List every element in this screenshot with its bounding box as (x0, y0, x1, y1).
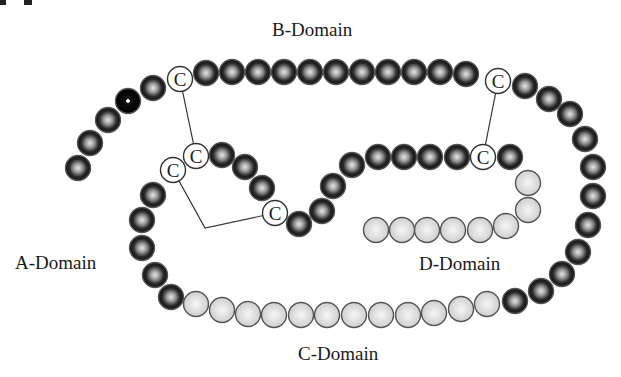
dark-residue-bead (96, 108, 121, 133)
bead-chain-svg: CCCCCC (0, 0, 621, 377)
dark-residue-bead (566, 240, 591, 265)
dark-residue-bead (287, 212, 312, 237)
dark-residue-bead (402, 60, 427, 85)
dark-residue-bead (445, 145, 470, 170)
dark-residue-bead (210, 143, 235, 168)
light-residue-bead (184, 292, 209, 317)
light-residue-bead (262, 303, 287, 328)
cysteine-bead: C (263, 201, 288, 226)
cysteine-bead: C (486, 69, 511, 94)
light-residue-bead (289, 303, 314, 328)
d-domain-label: D-Domain (419, 254, 500, 273)
dark-residue-bead (392, 145, 417, 170)
light-residue-bead (516, 198, 541, 223)
light-residue-bead (390, 218, 415, 243)
light-residue-bead (315, 303, 340, 328)
dark-residue-bead (78, 131, 103, 156)
a-domain-label: A-Domain (15, 253, 96, 272)
light-residue-bead (396, 303, 421, 328)
dark-residue-bead (581, 184, 606, 209)
light-residue-bead (364, 218, 389, 243)
dark-residue-bead (558, 102, 583, 127)
dark-residue-bead (418, 145, 443, 170)
light-residue-bead (468, 218, 493, 243)
light-residue-bead (494, 214, 519, 239)
cysteine-letter: C (174, 69, 187, 90)
dark-residue-bead (298, 60, 323, 85)
black-residue-bead (116, 89, 141, 114)
dark-residue-bead (513, 74, 538, 99)
amino-acid-beads: CCCCCC (66, 60, 606, 328)
dark-residue-bead (220, 60, 245, 85)
dark-residue-bead (340, 153, 365, 178)
cysteine-bead: C (471, 145, 496, 170)
dark-residue-bead (454, 62, 479, 87)
light-residue-bead (236, 302, 261, 327)
light-residue-bead (342, 303, 367, 328)
cysteine-letter: C (190, 146, 203, 167)
light-residue-bead (516, 171, 541, 196)
dark-residue-bead (130, 208, 155, 233)
c-domain-label: C-Domain (298, 344, 378, 363)
dark-residue-bead (310, 199, 335, 224)
cysteine-bead: C (161, 158, 186, 183)
light-residue-bead (369, 303, 394, 328)
dark-residue-bead (246, 60, 271, 85)
dark-residue-bead (324, 60, 349, 85)
dark-residue-bead (376, 60, 401, 85)
light-residue-bead (441, 218, 466, 243)
dark-residue-bead (143, 263, 168, 288)
dark-residue-bead (141, 183, 166, 208)
cysteine-bead: C (168, 67, 193, 92)
dark-residue-bead (529, 279, 554, 304)
cysteine-letter: C (269, 203, 282, 224)
dark-residue-bead (581, 155, 606, 180)
cysteine-letter: C (492, 71, 505, 92)
dark-residue-bead (576, 213, 601, 238)
dark-residue-bead (503, 289, 528, 314)
light-residue-bead (422, 301, 447, 326)
dark-residue-bead (573, 127, 598, 152)
dark-residue-bead (130, 236, 155, 261)
dark-residue-bead (550, 262, 575, 287)
cysteine-letter: C (167, 160, 180, 181)
light-residue-bead (210, 298, 235, 323)
dark-residue-bead (141, 76, 166, 101)
dark-residue-bead (428, 60, 453, 85)
dark-residue-bead (321, 174, 346, 199)
dark-residue-bead (537, 87, 562, 112)
b-domain-label: B-Domain (272, 20, 352, 39)
cysteine-letter: C (477, 147, 490, 168)
dark-residue-bead (194, 61, 219, 86)
light-residue-bead (449, 297, 474, 322)
dark-residue-bead (272, 60, 297, 85)
dark-residue-bead (233, 155, 258, 180)
dark-residue-bead (66, 156, 91, 181)
cysteine-bead: C (184, 144, 209, 169)
dark-residue-bead (366, 145, 391, 170)
proinsulin-diagram: CCCCCC B-Domain A-Domain D-Domain C-Doma… (0, 0, 621, 377)
light-residue-bead (475, 292, 500, 317)
dark-residue-bead (350, 60, 375, 85)
dark-residue-bead (498, 145, 523, 170)
light-residue-bead (415, 218, 440, 243)
dark-residue-bead (159, 285, 184, 310)
dark-residue-bead (250, 176, 275, 201)
